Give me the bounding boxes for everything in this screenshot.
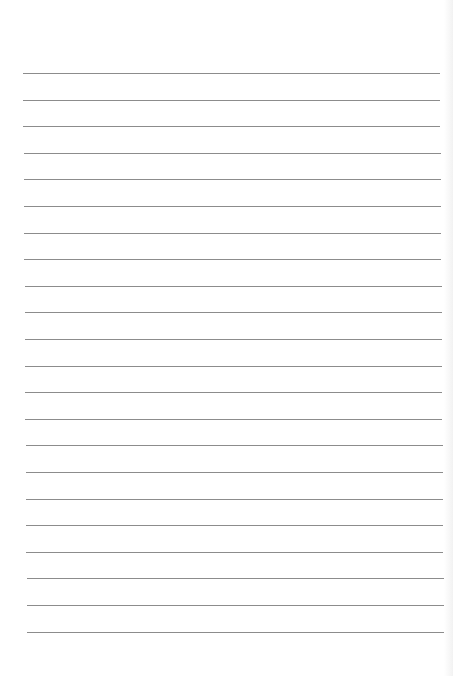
- ruled-line: [23, 126, 440, 127]
- ruled-line: [25, 286, 442, 287]
- ruled-line: [25, 312, 442, 313]
- page-edge-shade: [444, 0, 453, 676]
- ruled-line: [23, 73, 440, 74]
- ruled-line: [26, 525, 443, 526]
- ruled-line: [23, 100, 440, 101]
- ruled-line: [26, 499, 443, 500]
- lined-paper-page: [0, 0, 453, 676]
- ruled-line: [25, 392, 442, 393]
- ruled-line: [24, 179, 441, 180]
- ruled-line: [26, 552, 443, 553]
- ruled-line: [26, 472, 443, 473]
- ruled-line: [25, 366, 442, 367]
- ruled-line: [26, 445, 443, 446]
- ruled-line: [24, 233, 441, 234]
- ruled-line: [27, 605, 444, 606]
- ruled-line: [24, 206, 441, 207]
- ruled-line: [25, 339, 442, 340]
- ruled-line: [25, 419, 442, 420]
- ruled-line: [27, 632, 444, 633]
- ruled-line: [27, 578, 444, 579]
- ruled-line: [24, 153, 441, 154]
- ruled-line: [24, 259, 441, 260]
